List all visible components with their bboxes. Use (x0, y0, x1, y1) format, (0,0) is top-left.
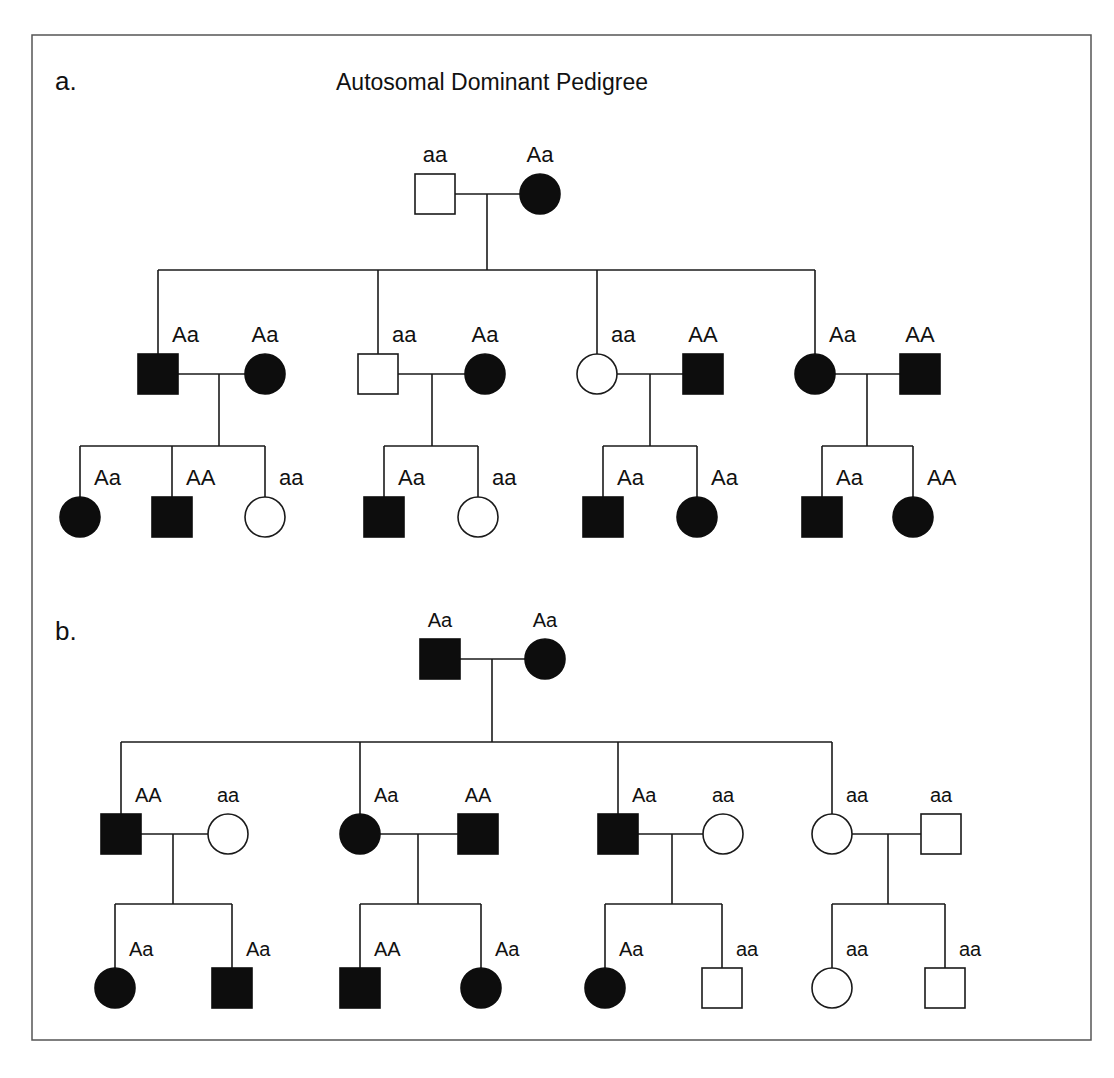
unaffected-male-symbol (925, 968, 965, 1008)
genotype-label: Aa (527, 142, 555, 167)
genotype-label: Aa (617, 465, 645, 490)
genotype-label: Aa (129, 938, 154, 960)
affected-female-symbol (893, 497, 933, 537)
affected-male-symbol (152, 497, 192, 537)
panel-label: a. (55, 66, 77, 96)
genotype-label: Aa (533, 609, 558, 631)
unaffected-female-symbol (458, 497, 498, 537)
unaffected-female-symbol (812, 814, 852, 854)
unaffected-female-symbol (812, 968, 852, 1008)
affected-male-symbol (458, 814, 498, 854)
affected-female-symbol (465, 354, 505, 394)
genotype-label: Aa (472, 322, 500, 347)
unaffected-male-symbol (921, 814, 961, 854)
genotype-label: AA (374, 938, 401, 960)
unaffected-male-symbol (415, 174, 455, 214)
genotype-label: Aa (398, 465, 426, 490)
genotype-label: AA (465, 784, 492, 806)
genotype-label: aa (279, 465, 304, 490)
panel-label: b. (55, 616, 77, 646)
affected-female-symbol (60, 497, 100, 537)
affected-female-symbol (340, 814, 380, 854)
affected-male-symbol (364, 497, 404, 537)
genotype-label: aa (712, 784, 735, 806)
affected-male-symbol (138, 354, 178, 394)
genotype-label: AA (927, 465, 957, 490)
affected-female-symbol (461, 968, 501, 1008)
affected-female-symbol (795, 354, 835, 394)
genotype-label: Aa (252, 322, 280, 347)
genotype-label: Aa (246, 938, 271, 960)
genotype-label: Aa (711, 465, 739, 490)
unaffected-male-symbol (702, 968, 742, 1008)
genotype-label: aa (846, 784, 869, 806)
genotype-label: aa (392, 322, 417, 347)
genotype-label: Aa (619, 938, 644, 960)
affected-male-symbol (802, 497, 842, 537)
affected-male-symbol (583, 497, 623, 537)
unaffected-female-symbol (703, 814, 743, 854)
genotype-label: aa (217, 784, 240, 806)
genotype-label: Aa (374, 784, 399, 806)
genotype-label: aa (959, 938, 982, 960)
unaffected-female-symbol (577, 354, 617, 394)
genotype-label: Aa (829, 322, 857, 347)
affected-male-symbol (598, 814, 638, 854)
genotype-label: aa (611, 322, 636, 347)
genotype-label: aa (423, 142, 448, 167)
genotype-label: AA (688, 322, 718, 347)
genotype-label: Aa (94, 465, 122, 490)
genotype-label: Aa (172, 322, 200, 347)
affected-female-symbol (95, 968, 135, 1008)
unaffected-male-symbol (358, 354, 398, 394)
genotype-label: AA (135, 784, 162, 806)
affected-male-symbol (683, 354, 723, 394)
genotype-label: Aa (632, 784, 657, 806)
affected-female-symbol (677, 497, 717, 537)
affected-male-symbol (212, 968, 252, 1008)
genotype-label: aa (492, 465, 517, 490)
pedigree-figure: a.Autosomal Dominant PedigreeaaAaAaAaaaA… (0, 0, 1114, 1078)
genotype-label: AA (905, 322, 935, 347)
unaffected-female-symbol (245, 497, 285, 537)
genotype-label: aa (736, 938, 759, 960)
genotype-label: AA (186, 465, 216, 490)
affected-female-symbol (525, 639, 565, 679)
affected-male-symbol (101, 814, 141, 854)
affected-male-symbol (900, 354, 940, 394)
affected-female-symbol (520, 174, 560, 214)
genotype-label: aa (846, 938, 869, 960)
genotype-label: aa (930, 784, 953, 806)
affected-male-symbol (420, 639, 460, 679)
genotype-label: Aa (428, 609, 453, 631)
affected-female-symbol (245, 354, 285, 394)
genotype-label: Aa (495, 938, 520, 960)
affected-female-symbol (585, 968, 625, 1008)
unaffected-female-symbol (208, 814, 248, 854)
figure-title: Autosomal Dominant Pedigree (336, 69, 648, 95)
genotype-label: Aa (836, 465, 864, 490)
affected-male-symbol (340, 968, 380, 1008)
